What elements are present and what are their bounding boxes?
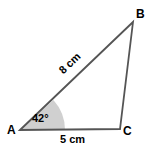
triangle-diagram: A B C 8 cm 5 cm 42° bbox=[0, 0, 156, 150]
vertex-label-a: A bbox=[7, 124, 16, 136]
triangle-svg bbox=[0, 0, 156, 150]
vertex-label-c: C bbox=[123, 125, 132, 137]
angle-label-a: 42° bbox=[32, 113, 49, 124]
side-label-ac: 5 cm bbox=[60, 134, 85, 145]
vertex-label-b: B bbox=[136, 8, 145, 20]
